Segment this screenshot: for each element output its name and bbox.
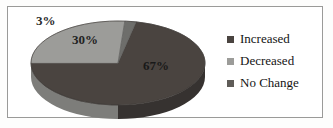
legend-label-increased: Increased: [240, 32, 290, 46]
pie-top-faces: [31, 21, 205, 105]
pie-label-decreased: 30%: [72, 32, 98, 48]
legend-swatch-icon-nochange: [227, 80, 234, 87]
legend-item-nochange[interactable]: No Change: [227, 72, 322, 94]
pie-label-increased: 67%: [143, 58, 169, 74]
legend-item-decreased[interactable]: Decreased: [227, 50, 322, 72]
legend-item-increased[interactable]: Increased: [227, 28, 322, 50]
pie-label-nochange: 3%: [36, 13, 56, 29]
chart-legend: Increased Decreased No Change: [227, 28, 322, 94]
legend-swatch-icon-increased: [227, 36, 234, 43]
legend-label-nochange: No Change: [240, 76, 299, 90]
pie-chart: 3% 30% 67% Increased Decreased No Change: [0, 0, 333, 128]
chart-screenshot: 3% 30% 67% Increased Decreased No Change: [0, 0, 333, 128]
legend-swatch-icon-decreased: [227, 58, 234, 65]
legend-label-decreased: Decreased: [240, 54, 294, 68]
